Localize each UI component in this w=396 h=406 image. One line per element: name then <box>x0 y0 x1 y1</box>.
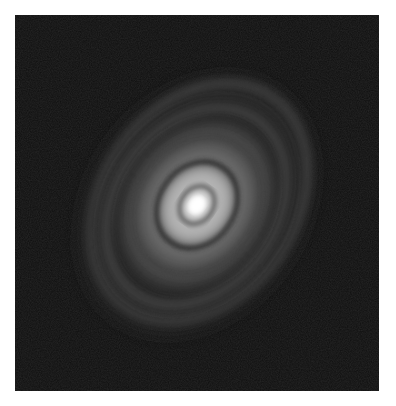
image-frame <box>15 15 379 391</box>
ring-nebula-image <box>15 15 379 391</box>
